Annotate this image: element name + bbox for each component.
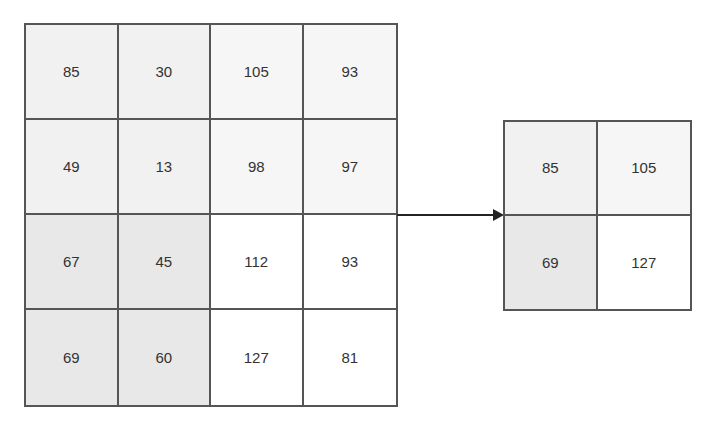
input-cell-3-0: 69 xyxy=(26,310,119,405)
input-cell-2-3: 93 xyxy=(304,215,397,310)
output-cell-1-1: 127 xyxy=(598,216,691,310)
input-cell-1-2: 98 xyxy=(211,120,304,215)
input-cell-1-3: 97 xyxy=(304,120,397,215)
input-cell-3-3: 81 xyxy=(304,310,397,405)
input-cell-3-2: 127 xyxy=(211,310,304,405)
input-cell-2-2: 112 xyxy=(211,215,304,310)
output-cell-0-0: 85 xyxy=(505,122,598,216)
input-cell-1-1: 13 xyxy=(119,120,212,215)
output-cell-1-0: 69 xyxy=(505,216,598,310)
input-cell-0-0: 85 xyxy=(26,25,119,120)
output-cell-0-1: 105 xyxy=(598,122,691,216)
input-cell-2-1: 45 xyxy=(119,215,212,310)
input-cell-3-1: 60 xyxy=(119,310,212,405)
input-cell-0-3: 93 xyxy=(304,25,397,120)
output-matrix: 85 105 69 127 xyxy=(503,120,692,311)
input-matrix: 85 30 105 93 49 13 98 97 67 45 112 93 69… xyxy=(24,23,398,407)
input-cell-1-0: 49 xyxy=(26,120,119,215)
input-cell-0-1: 30 xyxy=(119,25,212,120)
arrow-right-icon xyxy=(397,214,497,216)
input-cell-2-0: 67 xyxy=(26,215,119,310)
input-cell-0-2: 105 xyxy=(211,25,304,120)
